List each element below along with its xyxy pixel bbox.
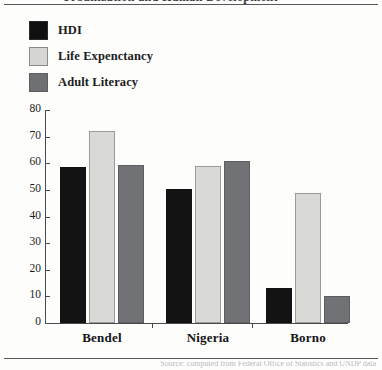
bar-life-expectancy-borno [295,193,321,323]
y-axis-tick [45,137,50,138]
cropped-caption-remnant: Source: computed from Federal Office of … [0,361,382,370]
bar-adult-literacy-bendel [118,165,144,323]
bar-hdi-nigeria [166,189,192,323]
x-axis-group-separator-tick [152,323,153,328]
y-axis-tick-label: 20 [30,262,42,274]
y-axis-tick-label: 10 [30,288,42,300]
y-axis-tick [45,270,50,271]
y-axis-tick [45,296,50,297]
y-axis-tick-label: 50 [30,182,42,194]
y-axis-tick-label: 60 [30,155,42,167]
x-axis-group-separator-tick [252,323,253,328]
y-axis-tick-label: 30 [30,235,42,247]
y-axis-tick [45,217,50,218]
x-axis-category-label-bendel: Bendel [57,330,147,346]
y-axis-tick-label: 70 [30,129,42,141]
y-axis-tick [45,163,50,164]
bar-hdi-bendel [60,167,86,323]
y-axis-tick-label: 0 [35,315,41,327]
x-axis-line [45,323,348,324]
x-axis-category-label-nigeria: Nigeria [163,330,253,346]
x-axis-category-label-borno: Borno [263,330,353,346]
bar-hdi-borno [266,288,292,323]
y-axis-tick [45,243,50,244]
bottom-rule-divider [4,358,378,359]
cropped-caption-text: Source: computed from Federal Office of … [160,361,376,368]
y-axis-tick-label: 80 [30,102,42,114]
y-axis-tick-label: 40 [30,209,42,221]
bar-life-expectancy-nigeria [195,166,221,323]
bar-chart-plot: 01020304050607080 BendelNigeriaBorno [0,0,382,370]
figure-page: Urbanization and Human Development HDI L… [0,0,382,370]
bar-adult-literacy-nigeria [224,161,250,323]
y-axis-tick [45,190,50,191]
y-axis-tick [45,110,50,111]
bar-adult-literacy-borno [324,296,350,323]
bar-life-expectancy-bendel [89,131,115,323]
